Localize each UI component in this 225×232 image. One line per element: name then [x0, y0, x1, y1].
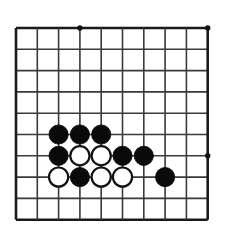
star-point: [205, 153, 210, 158]
black-stone[interactable]: [156, 168, 175, 187]
black-stone[interactable]: [49, 146, 68, 165]
white-stone[interactable]: [49, 168, 68, 187]
go-board-diagram: [0, 0, 225, 232]
black-stone[interactable]: [113, 146, 132, 165]
white-stone[interactable]: [92, 168, 111, 187]
star-point: [205, 25, 210, 30]
star-point: [77, 25, 82, 30]
black-stone[interactable]: [134, 146, 153, 165]
white-stone[interactable]: [113, 168, 132, 187]
white-stone[interactable]: [70, 146, 89, 165]
black-stone[interactable]: [92, 125, 111, 144]
black-stone[interactable]: [70, 125, 89, 144]
board-canvas: [0, 0, 225, 232]
black-stone[interactable]: [70, 168, 89, 187]
black-stone[interactable]: [49, 125, 68, 144]
white-stone[interactable]: [92, 146, 111, 165]
board-background: [0, 0, 225, 232]
